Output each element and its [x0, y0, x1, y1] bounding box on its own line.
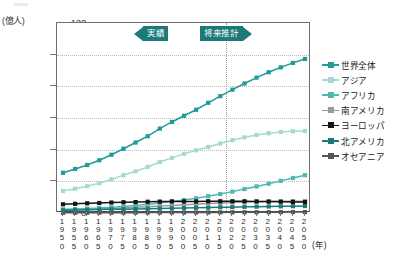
- legend-item-4[interactable]: ヨーロッパ: [322, 118, 400, 133]
- series-marker: [85, 163, 89, 167]
- series-marker: [61, 189, 65, 193]
- x-axis-tick-mark: [207, 212, 208, 216]
- population-line-chart-figure: (億人) 020406080100120 1950195519601965197…: [0, 0, 400, 263]
- legend-item-0[interactable]: 世界全体: [322, 57, 400, 72]
- series-marker: [121, 200, 125, 204]
- series-marker: [206, 201, 210, 205]
- plot-area: [56, 22, 310, 212]
- legend-swatch-icon: [322, 75, 339, 85]
- x-axis-tick-mark: [304, 212, 305, 216]
- series-marker: [61, 207, 65, 211]
- annotation-future: 将来推計: [200, 26, 252, 41]
- series-marker: [303, 129, 307, 133]
- legend-swatch-icon: [322, 120, 339, 130]
- series-marker: [255, 199, 259, 203]
- series-marker: [291, 204, 295, 208]
- series-marker: [218, 94, 222, 98]
- legend-item-1[interactable]: アジア: [322, 72, 400, 87]
- series-marker: [121, 207, 125, 211]
- x-axis-tick-mark: [98, 212, 99, 216]
- x-axis-tick-label: 2015: [215, 218, 224, 251]
- series-marker: [230, 199, 234, 203]
- x-axis-tick-mark: [195, 212, 196, 216]
- series-marker: [121, 173, 125, 177]
- projection-divider-line: [226, 23, 227, 211]
- series-marker: [134, 200, 138, 204]
- legend-item-3[interactable]: 南アメリカ: [322, 103, 400, 118]
- series-marker: [267, 204, 271, 208]
- series-marker: [218, 141, 222, 145]
- series-marker: [170, 200, 174, 204]
- series-marker: [97, 201, 101, 205]
- series-marker: [242, 135, 246, 139]
- x-axis-tick-mark: [86, 212, 87, 216]
- x-axis-tick-label: 2005: [191, 218, 200, 251]
- series-marker: [85, 206, 89, 210]
- x-axis-tick-label: 1975: [118, 218, 127, 251]
- series-marker: [279, 204, 283, 208]
- series-0: [61, 57, 307, 175]
- series-marker: [279, 130, 283, 134]
- series-marker: [242, 199, 246, 203]
- series-marker: [230, 200, 234, 204]
- x-axis-tick-label: 2035: [263, 218, 272, 251]
- series-marker: [134, 203, 138, 207]
- series-marker: [170, 156, 174, 160]
- series-marker: [206, 199, 210, 203]
- series-marker: [194, 196, 198, 200]
- series-marker: [121, 204, 125, 208]
- series-marker: [158, 206, 162, 210]
- series-3: [61, 199, 307, 212]
- x-axis-tick-label: 2000: [179, 218, 188, 251]
- y-axis-unit-label: (億人): [2, 14, 24, 27]
- legend-label: アフリカ: [341, 89, 376, 101]
- x-axis-tick-mark: [219, 212, 220, 216]
- series-marker: [109, 153, 113, 157]
- series-marker: [170, 206, 174, 210]
- series-marker: [230, 88, 234, 92]
- arrow-left-icon: [134, 27, 143, 41]
- series-marker: [279, 199, 283, 203]
- series-marker: [255, 205, 259, 209]
- series-marker: [242, 187, 246, 191]
- series-marker: [206, 145, 210, 149]
- series-marker: [194, 108, 198, 112]
- series-line: [63, 201, 305, 210]
- scan-artifact: [14, 3, 28, 6]
- x-axis-tick-mark: [159, 212, 160, 216]
- series-marker: [291, 129, 295, 133]
- x-axis-tick-mark: [110, 212, 111, 216]
- x-axis-tick-mark: [183, 212, 184, 216]
- x-axis-tick-mark: [231, 212, 232, 216]
- series-marker: [146, 205, 150, 209]
- legend-item-6[interactable]: オセアニア: [322, 148, 400, 163]
- series-line: [63, 206, 305, 210]
- chart-legend: 世界全体アジアアフリカ南アメリカヨーロッパ北アメリカオセアニア: [322, 57, 400, 163]
- series-marker: [279, 200, 283, 204]
- series-4: [61, 199, 307, 206]
- series-marker: [206, 101, 210, 105]
- legend-item-5[interactable]: 北アメリカ: [322, 133, 400, 148]
- series-marker: [182, 152, 186, 156]
- x-axis-tick-label: 2040: [275, 218, 284, 251]
- legend-item-2[interactable]: アフリカ: [322, 87, 400, 102]
- series-marker: [61, 171, 65, 175]
- series-marker: [97, 158, 101, 162]
- series-marker: [267, 70, 271, 74]
- series-marker: [109, 200, 113, 204]
- series-marker: [255, 76, 259, 80]
- series-marker: [230, 190, 234, 194]
- series-marker: [158, 200, 162, 204]
- annotation-actual: 実績: [134, 26, 168, 41]
- x-axis-tick-label: 2010: [203, 218, 212, 251]
- x-axis-tick-label: 2050: [300, 218, 309, 251]
- x-axis-tick-label: 1950: [58, 218, 67, 251]
- series-marker: [182, 206, 186, 210]
- x-axis-tick-mark: [292, 212, 293, 216]
- x-axis-tick-label: 1970: [106, 218, 115, 251]
- series-marker: [182, 203, 186, 207]
- x-axis-tick-mark: [147, 212, 148, 216]
- x-axis-tick-label: 2020: [227, 218, 236, 251]
- legend-label: 北アメリカ: [341, 135, 385, 147]
- legend-swatch-icon: [322, 60, 339, 70]
